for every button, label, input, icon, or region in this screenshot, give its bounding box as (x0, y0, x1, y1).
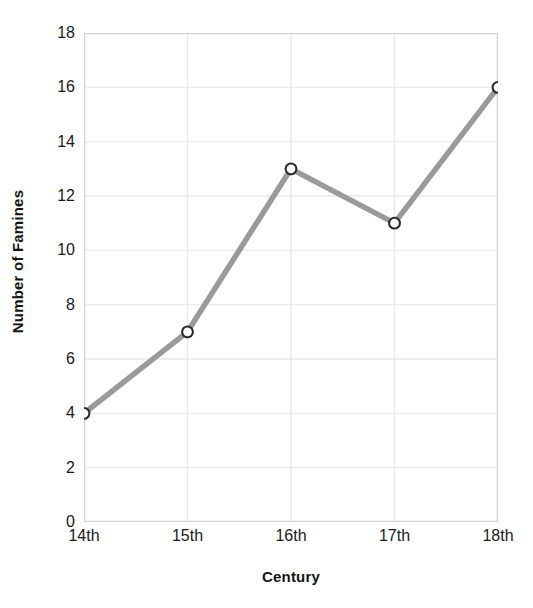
data-point-marker (182, 326, 193, 337)
x-tick-label: 17th (355, 528, 435, 544)
x-tick-label: 18th (458, 528, 533, 544)
y-tick-label: 12 (35, 188, 75, 204)
data-point-marker (389, 218, 400, 229)
y-tick-label: 8 (35, 297, 75, 313)
x-tick-label: 14th (44, 528, 124, 544)
y-tick-label: 4 (35, 405, 75, 421)
y-tick-label: 14 (35, 134, 75, 150)
x-tick-label: 15th (148, 528, 228, 544)
y-tick-label: 2 (35, 460, 75, 476)
y-tick-label: 16 (35, 79, 75, 95)
data-point-marker (286, 163, 297, 174)
y-axis-title-label: Number of Famines (10, 189, 27, 332)
x-tick-label: 16th (251, 528, 331, 544)
data-point-marker (493, 82, 498, 93)
data-point-marker (84, 408, 89, 419)
y-tick-label: 6 (35, 351, 75, 367)
plot-svg (84, 33, 498, 522)
line-chart: Number of Famines 024681012141618 14th15… (0, 0, 533, 608)
x-axis-title: Century (84, 568, 498, 585)
y-tick-label: 10 (35, 242, 75, 258)
y-axis-title: Number of Famines (0, 0, 36, 522)
y-tick-label: 18 (35, 25, 75, 41)
plot-area (84, 33, 498, 522)
